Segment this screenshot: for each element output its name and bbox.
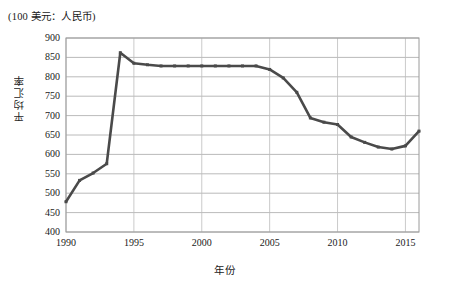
- data-point-marker: [418, 130, 421, 133]
- data-point-marker: [227, 64, 230, 67]
- data-point-marker: [282, 76, 285, 79]
- data-point-marker: [119, 51, 122, 54]
- data-point-marker: [350, 135, 353, 138]
- data-point-marker: [241, 64, 244, 67]
- data-point-marker: [268, 68, 271, 71]
- data-point-marker: [173, 64, 176, 67]
- data-point-marker: [78, 179, 81, 182]
- data-point-marker: [377, 146, 380, 149]
- data-point-marker: [309, 116, 312, 119]
- data-point-marker: [295, 91, 298, 94]
- data-point-marker: [200, 64, 203, 67]
- data-point-marker: [146, 63, 149, 66]
- data-series-line: [66, 53, 419, 202]
- data-point-marker: [105, 162, 108, 165]
- exchange-rate-chart-figure: (100 美元：人民币) 平均汇率 年份 9008508007507006506…: [0, 0, 449, 283]
- data-point-marker: [187, 64, 190, 67]
- plot-area: [0, 0, 449, 283]
- data-point-marker: [160, 64, 163, 67]
- data-point-marker: [214, 64, 217, 67]
- data-point-marker: [404, 144, 407, 147]
- data-point-marker: [132, 62, 135, 65]
- data-point-marker: [255, 64, 258, 67]
- data-point-marker: [363, 141, 366, 144]
- data-point-marker: [390, 147, 393, 150]
- data-point-marker: [65, 200, 68, 203]
- data-point-marker: [92, 172, 95, 175]
- data-point-marker: [322, 121, 325, 124]
- data-point-marker: [336, 123, 339, 126]
